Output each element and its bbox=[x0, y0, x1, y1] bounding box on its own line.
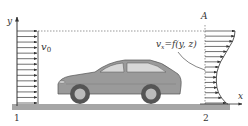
car-headlight bbox=[59, 81, 65, 84]
outlet-velocity-label: vx=f(y, z) bbox=[156, 39, 197, 50]
outlet-profile-curve bbox=[216, 31, 235, 104]
section-a-label: A bbox=[200, 11, 208, 21]
x-axis-label: x bbox=[238, 91, 243, 101]
car bbox=[58, 60, 181, 104]
leader-line bbox=[178, 52, 205, 70]
front-wheel-hub bbox=[75, 89, 86, 100]
flow-diagram: y x v0 A vx=f(y, z) 1 2 bbox=[0, 0, 248, 126]
rear-wheel-hub bbox=[146, 89, 157, 100]
station-1-label: 1 bbox=[14, 113, 20, 123]
y-axis-label: y bbox=[6, 16, 13, 26]
inlet-velocity-profile bbox=[17, 31, 37, 103]
ground-plane bbox=[12, 104, 230, 110]
inlet-velocity-label: v0 bbox=[41, 41, 51, 54]
outlet-velocity-profile bbox=[205, 31, 235, 103]
station-2-label: 2 bbox=[203, 113, 209, 123]
